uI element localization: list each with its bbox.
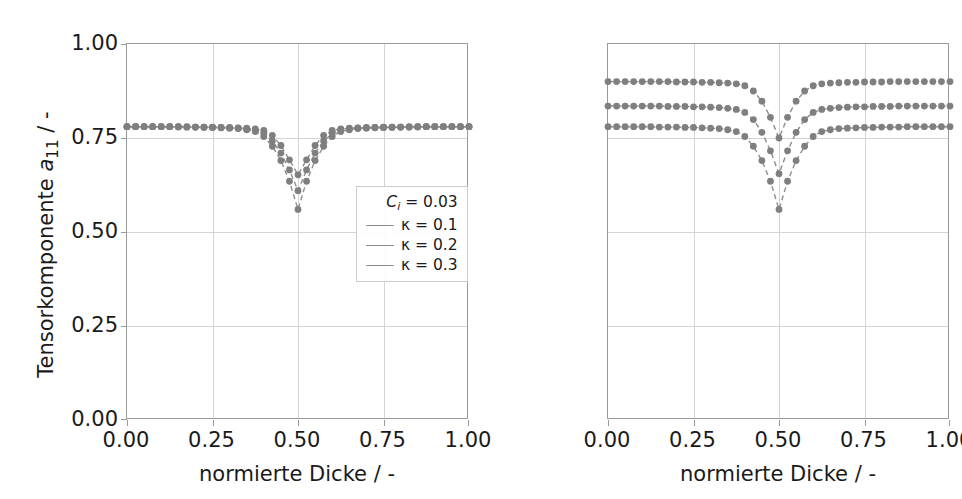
data-point-marker [895,103,902,110]
data-point-marker [887,78,894,85]
x-tick-mark [779,420,780,426]
data-point-marker [759,129,766,136]
data-point-marker [724,126,731,133]
x-tick-mark [608,420,609,426]
data-point-marker [904,103,911,110]
data-point-marker [243,126,250,133]
data-point-marker [622,78,629,85]
data-point-marker [861,79,868,86]
data-point-marker [741,82,748,89]
data-line [127,127,469,175]
data-point-marker [818,80,825,87]
data-point-marker [801,116,808,123]
data-point-marker [853,124,860,131]
data-point-marker [260,133,267,140]
chart-panel-left: Tensorkomponente a11 / - 0.00 0.25 0.50 … [0,0,481,499]
x-tick-label: 0.75 [840,430,887,451]
data-point-marker [605,123,612,130]
data-point-marker [622,103,629,110]
data-point-marker [457,123,464,130]
data-point-marker [192,124,199,131]
data-point-marker [733,106,740,113]
data-point-marker [767,147,774,154]
data-point-marker [878,79,885,86]
data-point-marker [921,103,928,110]
legend-item[interactable]: κ = 0.1 [366,215,458,235]
figure-canvas: Tensorkomponente a11 / - 0.00 0.25 0.50 … [0,0,962,499]
x-tick-label: 0.50 [755,430,802,451]
data-point-marker [844,125,851,132]
data-point-marker [835,125,842,132]
data-point-marker [827,105,834,112]
data-point-marker [397,124,404,131]
data-point-marker [278,142,285,149]
x-axis-title: normierte Dicke / - [126,462,468,486]
data-point-marker [699,79,706,86]
legend-title-value: = 0.03 [400,193,457,211]
data-point-marker [166,123,173,130]
data-point-marker [878,103,885,110]
data-point-marker [784,147,791,154]
data-point-marker [810,109,817,116]
data-point-marker [372,124,379,131]
data-point-marker [414,124,421,131]
data-point-marker [664,124,671,131]
data-point-marker [887,124,894,131]
chart-panel-right: 0.00 0.25 0.50 0.75 1.00 normierte Dicke… [481,0,962,499]
data-point-marker [647,78,654,85]
legend-left: Ci = 0.03 κ = 0.1 κ = 0.2 κ = 0.3 [356,186,468,282]
data-point-marker [750,88,757,95]
x-tick-label: 0.75 [359,430,406,451]
data-point-marker [947,78,954,85]
data-point-marker [630,123,637,130]
data-point-marker [759,98,766,105]
data-point-marker [613,78,620,85]
data-point-marker [158,123,165,130]
data-point-marker [793,157,800,164]
data-point-marker [605,78,612,85]
data-point-marker [801,143,808,150]
legend-item[interactable]: κ = 0.3 [366,255,458,275]
data-point-marker [767,114,774,121]
data-point-marker [921,78,928,85]
data-point-marker [183,124,190,131]
data-point-marker [733,80,740,87]
data-point-marker [930,78,937,85]
y-tick-label-group-right [481,43,599,419]
data-point-marker [218,124,225,131]
data-point-marker [639,103,646,110]
data-point-marker [286,178,293,185]
data-point-marker [716,104,723,111]
data-point-marker [124,123,131,130]
data-point-marker [406,124,413,131]
data-point-marker [793,98,800,105]
data-point-marker [337,128,344,135]
x-tick-mark [949,420,950,426]
data-point-marker [149,123,156,130]
data-point-marker [363,125,370,132]
data-point-marker [329,133,336,140]
data-point-marker [930,103,937,110]
data-point-marker [938,103,945,110]
data-point-marker [912,78,919,85]
data-point-marker [844,79,851,86]
x-tick-label: 0.25 [669,430,716,451]
data-point-marker [630,103,637,110]
x-tick-label: 0.00 [103,430,150,451]
data-point-marker [887,103,894,110]
x-tick-mark [298,420,299,426]
data-point-marker [278,157,285,164]
data-point-marker [431,123,438,130]
data-point-marker [303,156,310,163]
data-point-marker [776,170,783,177]
data-point-marker [716,125,723,132]
legend-item[interactable]: κ = 0.2 [366,235,458,255]
data-point-marker [938,78,945,85]
data-point-marker [707,104,714,111]
data-point-marker [690,103,697,110]
data-point-marker [912,103,919,110]
data-point-marker [947,103,954,110]
data-point-marker [613,123,620,130]
x-tick-mark [213,420,214,426]
data-point-marker [286,156,293,163]
